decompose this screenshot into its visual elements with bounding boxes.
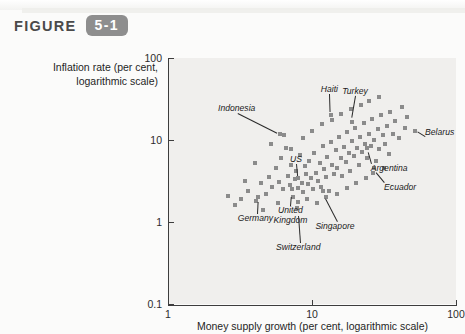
data-point xyxy=(269,142,273,146)
data-point xyxy=(377,95,381,99)
data-point xyxy=(385,124,389,128)
data-point xyxy=(329,113,333,117)
data-point xyxy=(290,187,294,191)
data-point xyxy=(340,174,344,178)
y-axis-title-line2: logarithmic scale) xyxy=(76,75,158,87)
data-point xyxy=(327,189,331,193)
data-point xyxy=(325,155,329,159)
data-point xyxy=(316,179,320,183)
data-point xyxy=(339,112,343,116)
data-point xyxy=(296,200,300,204)
data-point xyxy=(322,167,326,171)
data-point xyxy=(324,175,328,179)
data-point xyxy=(226,194,230,198)
annotation-label: Ecuador xyxy=(384,183,416,193)
annotation-label: Switzerland xyxy=(276,243,320,253)
data-point xyxy=(377,147,381,151)
data-point xyxy=(335,192,339,196)
data-point xyxy=(305,197,309,201)
data-point xyxy=(367,132,371,136)
data-point xyxy=(345,186,349,190)
data-point xyxy=(357,163,361,167)
data-point xyxy=(296,186,300,190)
data-point xyxy=(282,133,286,137)
x-tick-mark xyxy=(168,300,169,306)
data-point xyxy=(314,171,318,175)
data-point xyxy=(335,166,339,170)
data-point xyxy=(321,189,325,193)
data-point xyxy=(239,197,243,201)
y-tick-label: 100 xyxy=(0,52,172,64)
data-point xyxy=(334,148,338,152)
y-tick-label: 1 xyxy=(0,216,172,228)
x-tick-mark xyxy=(312,300,313,306)
annotation-label: Indonesia xyxy=(218,104,255,114)
data-point xyxy=(309,176,313,180)
data-point xyxy=(264,192,268,196)
figure-header: FIGURE 5-1 xyxy=(14,15,128,36)
data-point xyxy=(372,138,376,142)
data-point xyxy=(367,99,371,103)
data-point xyxy=(303,164,307,168)
data-point xyxy=(246,189,250,193)
data-point xyxy=(310,129,314,133)
data-point xyxy=(330,163,334,167)
data-point xyxy=(397,136,401,140)
data-point xyxy=(315,201,319,205)
data-point xyxy=(270,185,274,189)
data-point xyxy=(291,195,295,199)
data-point xyxy=(405,115,409,119)
y-tick-label: 0.1 xyxy=(0,298,172,310)
figure-label: FIGURE xyxy=(14,18,77,34)
data-point xyxy=(296,176,300,180)
data-point xyxy=(267,175,271,179)
data-point xyxy=(311,187,315,191)
data-point xyxy=(347,151,351,155)
data-point xyxy=(261,208,265,212)
data-point xyxy=(301,136,305,140)
data-point xyxy=(359,103,363,107)
data-point xyxy=(312,151,316,155)
x-tick-label: 10 xyxy=(306,308,318,320)
data-point xyxy=(306,182,310,186)
data-point xyxy=(259,181,263,185)
data-point xyxy=(318,161,322,165)
data-point xyxy=(354,181,358,185)
data-point xyxy=(403,126,407,130)
data-point xyxy=(350,139,354,143)
data-point xyxy=(329,140,333,144)
data-point xyxy=(332,172,336,176)
annotation-label: Germany xyxy=(238,214,273,224)
data-point xyxy=(342,145,346,149)
x-axis-title: Money supply growth (per cent, logarithm… xyxy=(160,320,465,332)
data-point xyxy=(379,113,383,117)
figure-root: FIGURE 5-1 Inflation rate (per cent, log… xyxy=(0,0,465,334)
y-tick-label: 10 xyxy=(0,134,172,146)
data-point xyxy=(370,117,374,121)
data-point xyxy=(289,147,293,151)
data-point xyxy=(362,121,366,125)
data-point xyxy=(400,105,404,109)
data-point xyxy=(256,195,260,199)
data-point xyxy=(253,161,257,165)
data-point xyxy=(388,110,392,114)
annotation-label: Belarus xyxy=(425,128,454,138)
data-point xyxy=(376,127,380,131)
annotation-label: United Kingdom xyxy=(267,206,313,226)
data-point xyxy=(369,144,373,148)
data-point xyxy=(353,126,357,130)
data-point xyxy=(381,133,385,137)
y-axis-title: Inflation rate (per cent, logarithmic sc… xyxy=(18,60,158,88)
x-tick-label: 1 xyxy=(165,308,171,320)
data-point xyxy=(304,172,308,176)
data-point xyxy=(352,154,356,158)
data-point xyxy=(307,159,311,163)
data-point xyxy=(274,166,278,170)
data-point xyxy=(358,135,362,139)
data-point xyxy=(279,156,283,160)
data-point xyxy=(344,160,348,164)
data-point xyxy=(391,132,395,136)
data-point xyxy=(300,181,304,185)
data-point xyxy=(320,122,324,126)
data-point xyxy=(281,187,285,191)
